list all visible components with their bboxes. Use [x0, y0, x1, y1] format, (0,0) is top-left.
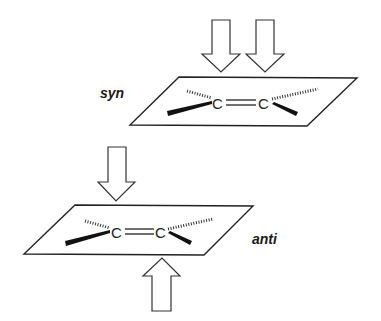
- molecular-plane: [130, 77, 357, 126]
- anti-panel: C C anti: [24, 147, 278, 311]
- down-arrow-icon: [202, 20, 240, 72]
- wedge-bond: [272, 102, 298, 116]
- wedge-bond: [168, 231, 192, 245]
- carbon-atom: C: [212, 95, 223, 112]
- up-arrow-icon: [143, 258, 180, 311]
- hashed-bond: [187, 91, 212, 98]
- syn-anti-diagram: C C syn C C anti: [0, 0, 381, 321]
- hashed-bond: [85, 221, 110, 228]
- carbon-atom: C: [111, 224, 122, 241]
- carbon-atom: C: [258, 95, 269, 112]
- wedge-bond: [65, 230, 110, 246]
- carbon-atom: C: [155, 224, 166, 241]
- down-arrow-icon: [98, 147, 135, 201]
- wedge-bond: [167, 101, 212, 116]
- anti-label: anti: [252, 231, 278, 247]
- syn-label: syn: [100, 85, 124, 101]
- syn-panel: C C syn: [100, 20, 357, 126]
- hashed-bond: [272, 89, 318, 99]
- molecular-plane: [24, 205, 253, 255]
- hashed-bond: [168, 219, 213, 229]
- down-arrow-icon: [246, 20, 284, 72]
